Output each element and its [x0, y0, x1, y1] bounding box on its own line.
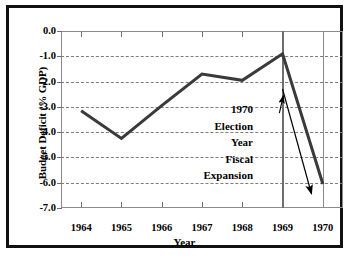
x-axis-tick-label: 1967: [182, 222, 222, 233]
y-axis-tick-label: -6.0: [22, 178, 56, 188]
annotation-text-line: Expansion: [157, 167, 253, 184]
annotation-text-line: Fiscal: [157, 151, 253, 168]
figure-chart-budget-deficit: Budget Deficit (% GDP) Year 0.0-1.0-2.0-…: [0, 0, 351, 259]
y-axis-tick-label: -2.0: [22, 77, 56, 87]
y-axis-tick-label: 0.0: [22, 26, 56, 36]
x-axis-tick-label: 1966: [142, 222, 182, 233]
annotation-leader-arrow: [279, 95, 283, 113]
annotation-text-line: Year: [157, 134, 253, 151]
x-axis-tick-label: 1970: [303, 222, 343, 233]
figure-outer-frame: Budget Deficit (% GDP) Year 0.0-1.0-2.0-…: [6, 5, 343, 248]
y-axis-tick-label: -7.0: [22, 203, 56, 213]
x-axis-title: Year: [9, 236, 351, 248]
y-axis-tick-label: -4.0: [22, 127, 56, 137]
annotation-text-line: Election: [157, 118, 253, 135]
annotation-label: 1970ElectionYearFiscalExpansion: [157, 101, 253, 184]
x-axis-tick-label: 1968: [222, 222, 262, 233]
annotation-text-line: 1970: [157, 101, 253, 118]
x-axis-tick-label: 1965: [101, 222, 141, 233]
y-axis-tick-mark: [57, 208, 62, 209]
y-axis-tick-label: -3.0: [22, 102, 56, 112]
x-axis-tick-label: 1964: [61, 222, 101, 233]
y-axis-tick-label: -1.0: [22, 51, 56, 61]
y-axis-tick-label: -5.0: [22, 152, 56, 162]
x-axis-tick-label: 1969: [263, 222, 303, 233]
